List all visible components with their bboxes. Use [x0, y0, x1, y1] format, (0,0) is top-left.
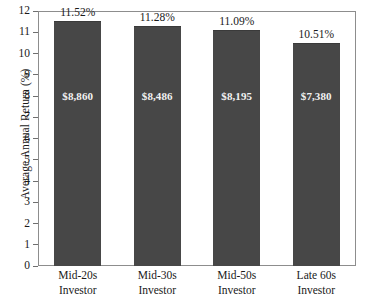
- x-tick-label-line: Investor: [197, 283, 277, 298]
- x-tick-label-line: Investor: [277, 283, 357, 298]
- x-tick-label-line: Mid-50s: [197, 268, 277, 283]
- bar-inner-label: $7,380: [301, 90, 332, 103]
- y-tick-label: 4: [24, 173, 30, 188]
- x-tick-label-line: Mid-20s: [38, 268, 118, 283]
- bar-group: 11.28%$8,486: [134, 11, 181, 266]
- x-axis-labels: Mid-20sInvestorMid-30sInvestorMid-50sInv…: [38, 268, 356, 302]
- bar-value-label: 11.52%: [60, 6, 95, 19]
- y-tick-label: 7: [24, 109, 30, 124]
- y-tick-label: 12: [19, 3, 31, 18]
- bar-inner-label: $8,195: [221, 90, 252, 103]
- bar-value-label: 11.28%: [140, 11, 175, 24]
- bar-inner-label: $8,486: [142, 90, 173, 103]
- x-tick-label: Late 60sInvestor: [277, 268, 357, 298]
- x-tick-label: Mid-50sInvestor: [197, 268, 277, 298]
- bar: [213, 30, 260, 266]
- bar: [54, 21, 101, 266]
- y-tick-label: 2: [24, 216, 30, 231]
- y-tick-label: 5: [24, 152, 30, 167]
- x-tick-label: Mid-20sInvestor: [38, 268, 118, 298]
- bar-inner-label: $8,860: [62, 90, 93, 103]
- bar-group: 11.09%$8,195: [213, 11, 260, 266]
- bar-value-label: 10.51%: [299, 28, 334, 41]
- y-tick-label: 3: [24, 194, 30, 209]
- y-tick-label: 6: [24, 131, 30, 146]
- y-tick-label: 11: [19, 24, 30, 39]
- x-tick-label-line: Late 60s: [277, 268, 357, 283]
- bar: [293, 43, 340, 266]
- x-tick-label-line: Investor: [118, 283, 198, 298]
- bar-value-label: 11.09%: [219, 15, 254, 28]
- y-tick-label: 0: [24, 258, 30, 273]
- bar-group: 10.51%$7,380: [293, 11, 340, 266]
- x-tick-label: Mid-30sInvestor: [118, 268, 198, 298]
- x-tick-label-line: Mid-30s: [118, 268, 198, 283]
- y-tick-label: 8: [24, 88, 30, 103]
- y-tick-label: 10: [19, 46, 31, 61]
- bar: [134, 26, 181, 266]
- x-tick-label-line: Investor: [38, 283, 118, 298]
- y-tick-label: 9: [24, 67, 30, 82]
- y-tick-label: 1: [24, 237, 30, 252]
- bar-group: 11.52%$8,860: [54, 11, 101, 266]
- bar-chart: Average Annual Return (%) 01234567891011…: [0, 0, 371, 302]
- bars-container: 11.52%$8,86011.28%$8,48611.09%$8,19510.5…: [38, 11, 356, 266]
